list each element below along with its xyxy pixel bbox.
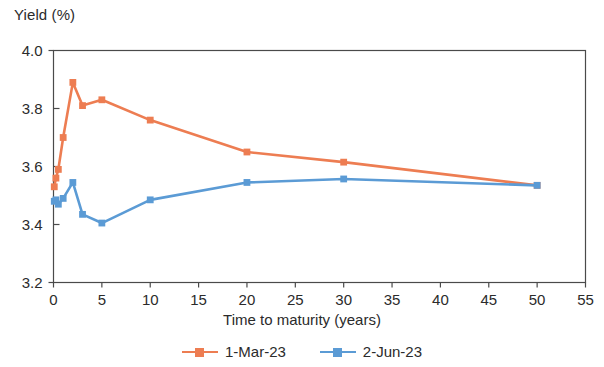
series-marker-0 — [60, 134, 67, 141]
legend-swatch-series-0 — [182, 345, 218, 359]
x-tick-label: 40 — [432, 291, 449, 308]
legend-marker-series-0 — [195, 348, 204, 357]
series-marker-1 — [69, 179, 76, 186]
series-marker-0 — [98, 96, 105, 103]
chart-legend: 1-Mar-23 2-Jun-23 — [0, 343, 604, 360]
series-marker-0 — [79, 102, 86, 109]
series-line-0 — [54, 82, 537, 186]
x-tick-label: 20 — [239, 291, 256, 308]
y-tick-label: 3.8 — [22, 100, 43, 117]
x-tick-label: 5 — [98, 291, 106, 308]
series-marker-1 — [98, 220, 105, 227]
x-tick-label: 30 — [335, 291, 352, 308]
legend-label-series-1: 2-Jun-23 — [363, 343, 422, 360]
legend-marker-series-1 — [333, 348, 342, 357]
series-marker-0 — [244, 149, 251, 156]
y-tick-label: 3.6 — [22, 158, 43, 175]
series-line-1 — [54, 179, 537, 223]
x-tick-label: 0 — [49, 291, 57, 308]
x-axis-title: Time to maturity (years) — [0, 311, 604, 328]
series-marker-0 — [53, 175, 60, 182]
y-tick-label: 4.0 — [22, 42, 43, 59]
series-marker-1 — [340, 176, 347, 183]
yield-curve-chart: Yield (%) 05101520253035404550553.23.43.… — [0, 0, 604, 367]
y-tick-label: 3.4 — [22, 216, 43, 233]
x-tick-label: 50 — [529, 291, 546, 308]
series-marker-1 — [244, 179, 251, 186]
legend-item-series-0[interactable]: 1-Mar-23 — [182, 343, 286, 360]
series-marker-0 — [340, 159, 347, 166]
series-marker-0 — [69, 79, 76, 86]
plot-frame — [54, 51, 586, 283]
series-marker-1 — [534, 182, 541, 189]
x-tick-label: 45 — [480, 291, 497, 308]
legend-label-series-0: 1-Mar-23 — [225, 343, 286, 360]
x-tick-label: 15 — [190, 291, 207, 308]
y-tick-label: 3.2 — [22, 274, 43, 291]
x-tick-label: 10 — [142, 291, 159, 308]
series-marker-1 — [60, 195, 67, 202]
x-tick-label: 25 — [287, 291, 304, 308]
x-tick-label: 35 — [384, 291, 401, 308]
series-marker-0 — [147, 117, 154, 124]
series-marker-0 — [51, 183, 58, 190]
legend-item-series-1[interactable]: 2-Jun-23 — [320, 343, 422, 360]
x-tick-label: 55 — [577, 291, 594, 308]
series-marker-1 — [147, 196, 154, 203]
series-marker-1 — [79, 211, 86, 218]
series-marker-1 — [55, 201, 62, 208]
legend-swatch-series-1 — [320, 345, 356, 359]
series-marker-0 — [55, 166, 62, 173]
